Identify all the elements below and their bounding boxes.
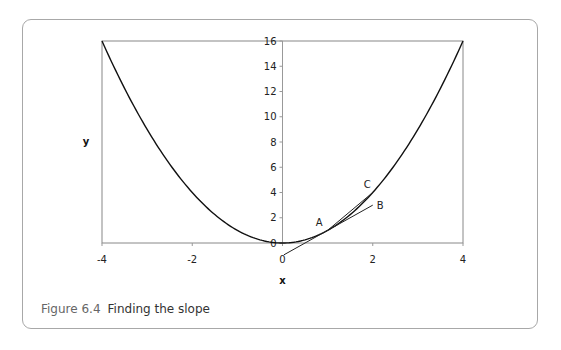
y-tick-label: 12 [264, 86, 277, 97]
parabola-chart: 0246810121416-4-2024xyABC [0, 0, 561, 350]
y-tick-label: 10 [264, 111, 277, 122]
x-tick-label: 2 [370, 254, 376, 265]
figure-caption: Figure 6.4Finding the slope [41, 302, 210, 316]
figure-number: Figure 6.4 [41, 302, 101, 316]
y-tick-label: 6 [270, 162, 276, 173]
y-tick-label: 8 [270, 137, 276, 148]
chord-line [328, 193, 373, 231]
y-tick-label: 4 [270, 187, 276, 198]
x-tick-label: 0 [279, 254, 285, 265]
point-label-c: C [364, 179, 371, 190]
figure-title: Finding the slope [108, 302, 210, 316]
y-tick-label: 14 [264, 61, 277, 72]
x-tick-label: 4 [460, 254, 466, 265]
y-axis-title: y [83, 136, 90, 147]
x-axis-title: x [279, 275, 286, 286]
y-tick-label: 16 [264, 36, 277, 47]
y-tick-label: 2 [270, 212, 276, 223]
x-tick-label: -4 [97, 254, 107, 265]
x-tick-label: -2 [187, 254, 197, 265]
point-label-b: B [377, 200, 384, 211]
point-label-a: A [316, 217, 323, 228]
